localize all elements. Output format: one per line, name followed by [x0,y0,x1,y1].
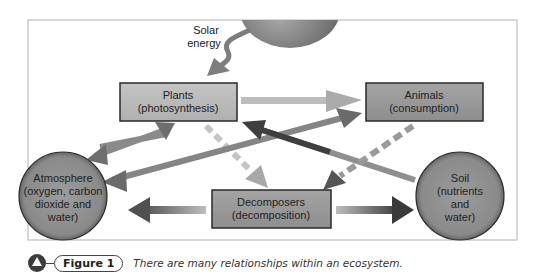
ecosystem-diagram: Solar energy Plants (photosynthesis) Ani… [0,0,543,250]
arrow-plants-animals [241,97,329,104]
atmosphere-label: Atmosphere [33,172,92,184]
animals-label: Animals [404,89,444,101]
node-animals: Animals (consumption) [366,83,483,121]
soil-label: Soil [451,172,469,184]
node-soil: Soil (nutrients and water) [416,152,504,240]
arrow-decomposers-atmosphere [142,206,206,214]
soil-sublabel-3: water) [444,211,476,223]
plants-sublabel: (photosynthesis) [138,102,219,114]
caption-connector [46,263,54,264]
atmosphere-sublabel-3: water) [47,211,79,223]
decomposers-sublabel: (decomposition) [232,209,310,221]
node-decomposers: Decomposers (decomposition) [212,190,331,228]
solar-label-line1: Solar [193,24,219,36]
caption-text: There are many relationships within an e… [133,257,402,269]
soil-sublabel-1: (nutrients [437,185,483,197]
atmosphere-sublabel-2: dioxide and [35,198,91,210]
soil-sublabel-2: and [451,198,469,210]
arrow-decomposers-soil [336,206,396,214]
atmosphere-sublabel-1: (oxygen, carbon [24,185,103,197]
figure-caption: Figure 1 There are many relationships wi… [28,253,403,273]
node-plants: Plants (photosynthesis) [120,83,237,121]
plants-label: Plants [163,89,194,101]
figure-label: Figure 1 [54,255,123,272]
decomposers-label: Decomposers [237,196,305,208]
solar-label-line2: energy [187,37,221,49]
node-atmosphere: Atmosphere (oxygen, carbon dioxide and w… [19,152,107,240]
animals-sublabel: (consumption) [389,102,459,114]
triangle-icon [28,254,46,272]
